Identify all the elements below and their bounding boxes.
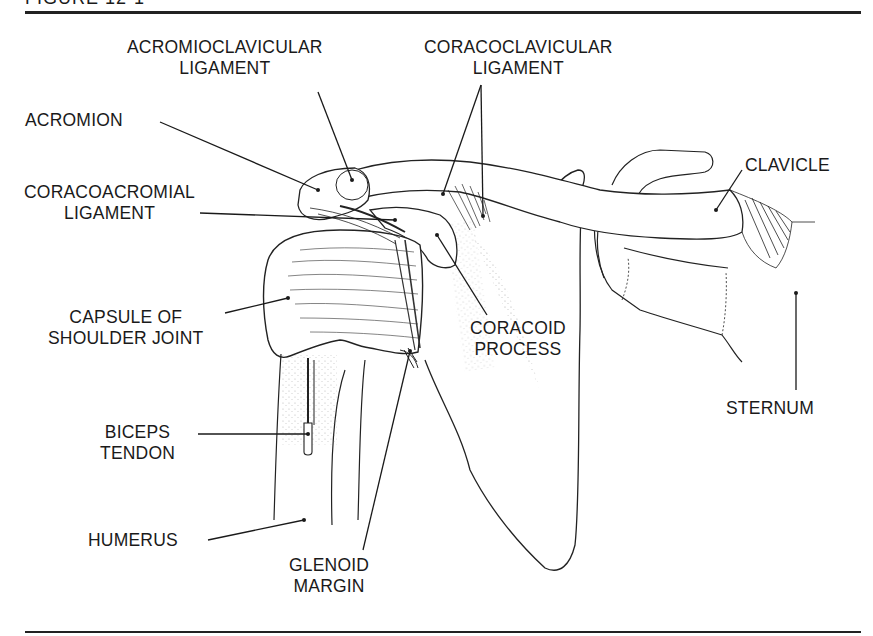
label-line: PROCESS	[470, 339, 566, 360]
label-line: HUMERUS	[88, 530, 178, 551]
label-line: LIGAMENT	[424, 58, 613, 79]
label-humerus: HUMERUS	[88, 530, 178, 551]
label-line: GLENOID	[289, 555, 369, 576]
label-coracoacromial-ligament: CORACOACROMIAL LIGAMENT	[24, 182, 195, 224]
label-clavicle: CLAVICLE	[745, 155, 830, 176]
label-biceps-tendon: BICEPS TENDON	[100, 422, 175, 464]
rib-outline	[594, 150, 742, 362]
label-line: CORACOACROMIAL	[24, 182, 195, 203]
label-sternum: STERNUM	[726, 398, 814, 419]
label-line: ACROMIOCLAVICULAR	[127, 37, 323, 58]
label-line: CAPSULE OF	[48, 307, 203, 328]
label-line: BICEPS	[100, 422, 175, 443]
label-acromioclavicular-ligament: ACROMIOCLAVICULAR LIGAMENT	[127, 37, 323, 79]
label-line: LIGAMENT	[24, 203, 195, 224]
label-coracoid-process: CORACOID PROCESS	[470, 318, 566, 360]
label-line: CORACOCLAVICULAR	[424, 37, 613, 58]
leader-humerus	[208, 520, 304, 540]
label-line: LIGAMENT	[127, 58, 323, 79]
label-line: STERNUM	[726, 398, 814, 419]
label-line: SHOULDER JOINT	[48, 328, 203, 349]
label-capsule-of-shoulder-joint: CAPSULE OF SHOULDER JOINT	[48, 307, 203, 349]
label-line: CORACOID	[470, 318, 566, 339]
label-line: TENDON	[100, 443, 175, 464]
label-line: CLAVICLE	[745, 155, 830, 176]
leader-acromion	[160, 122, 318, 190]
label-line: MARGIN	[289, 576, 369, 597]
label-glenoid-margin: GLENOID MARGIN	[289, 555, 369, 597]
leader-acromioclavicular	[318, 92, 352, 180]
label-coracoclavicular-ligament: CORACOCLAVICULAR LIGAMENT	[424, 37, 613, 79]
leader-glenoid	[363, 351, 410, 550]
label-acromion: ACROMION	[25, 110, 123, 131]
label-line: ACROMION	[25, 110, 123, 131]
joint-capsule	[264, 230, 423, 357]
